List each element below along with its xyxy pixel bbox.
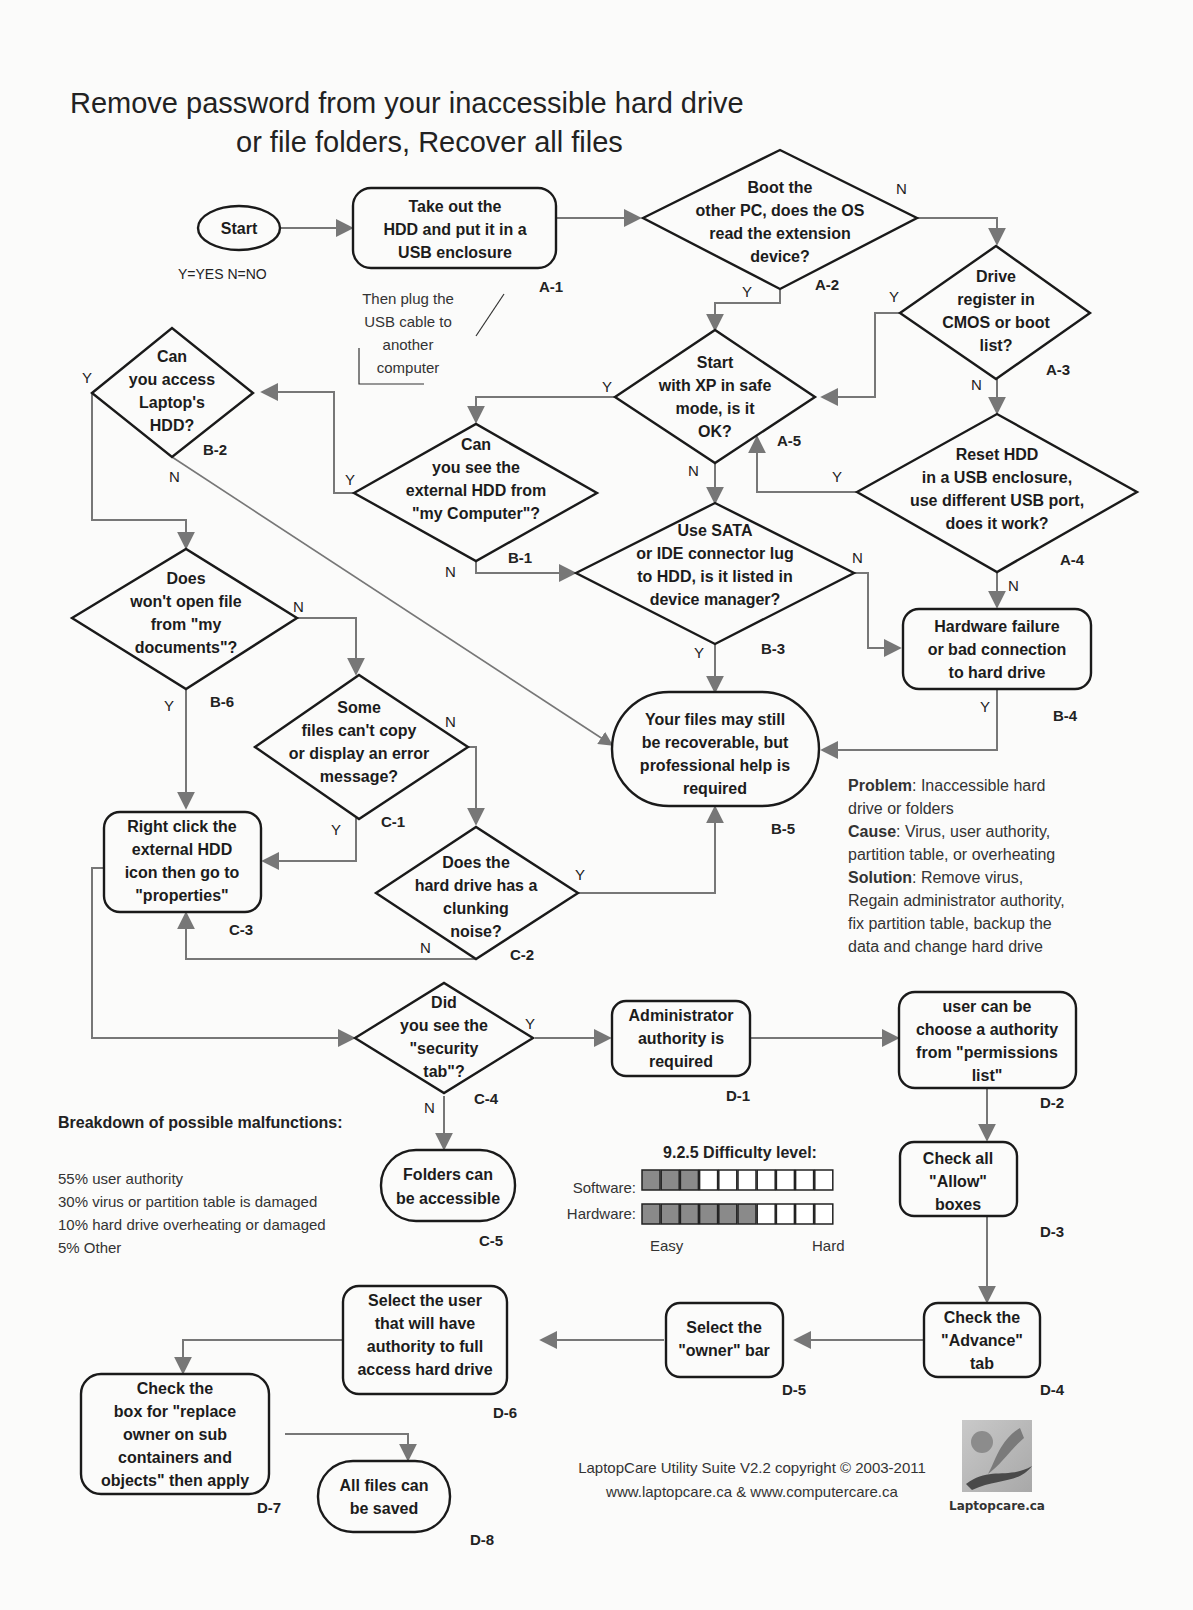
difficulty-cell	[680, 1170, 698, 1190]
node-id-B2: B-2	[203, 441, 227, 458]
svg-text:be saved: be saved	[350, 1500, 418, 1517]
edge-label-A2-N: N	[896, 180, 907, 197]
svg-text:list": list"	[972, 1067, 1003, 1084]
svg-text:be recoverable, but: be recoverable, but	[642, 734, 789, 751]
node-id-C1: C-1	[381, 813, 405, 830]
node-D3[interactable]: Check all "Allow" boxes	[900, 1142, 1017, 1216]
svg-text:5% Other: 5% Other	[58, 1239, 121, 1256]
svg-text:you access: you access	[129, 371, 215, 388]
svg-text:files can't copy: files can't copy	[302, 722, 417, 739]
svg-text:30% virus or partition table i: 30% virus or partition table is damaged	[58, 1193, 317, 1210]
svg-text:tab: tab	[970, 1355, 994, 1372]
edge-label-B2-Y: Y	[82, 369, 92, 386]
svg-text:Does the: Does the	[442, 854, 510, 871]
node-B2[interactable]: Can you access Laptop's HDD?	[92, 328, 253, 457]
svg-text:Check the: Check the	[944, 1309, 1021, 1326]
svg-text:Check all: Check all	[923, 1150, 993, 1167]
node-D1[interactable]: Administrator authority is required	[612, 1001, 750, 1076]
node-D4[interactable]: Check the "Advance" tab	[924, 1303, 1040, 1377]
svg-text:Use SATA: Use SATA	[678, 522, 753, 539]
svg-text:"security: "security	[410, 1040, 479, 1057]
node-C4[interactable]: Did you see the "security tab"?	[355, 983, 533, 1093]
svg-text:Some: Some	[337, 699, 381, 716]
svg-text:Folders can: Folders can	[403, 1166, 493, 1183]
edge-label-C4-Y: Y	[525, 1015, 535, 1032]
edge-label-B3-Y: Y	[694, 644, 704, 661]
svg-text:that will have: that will have	[375, 1315, 476, 1332]
svg-text:other PC, does the OS: other PC, does the OS	[696, 202, 865, 219]
node-id-D4: D-4	[1040, 1381, 1065, 1398]
svg-text:or IDE connector lug: or IDE connector lug	[636, 545, 793, 562]
node-D8[interactable]: All files can be saved	[318, 1461, 450, 1532]
node-A1[interactable]: Take out the HDD and put it in a USB enc…	[353, 188, 556, 268]
edge-label-B6-N: N	[293, 598, 304, 615]
node-C2[interactable]: Does the hard drive has a clunking noise…	[376, 827, 578, 959]
svg-text:hard drive has a: hard drive has a	[415, 877, 538, 894]
svg-text:"Allow": "Allow"	[929, 1173, 987, 1190]
svg-text:Then plug the: Then plug the	[362, 290, 454, 307]
svg-text:professional help is: professional help is	[640, 757, 790, 774]
difficulty-cell	[815, 1204, 833, 1224]
svg-text:USB cable to: USB cable to	[364, 313, 452, 330]
svg-text:to hard drive: to hard drive	[949, 664, 1046, 681]
node-id-D3: D-3	[1040, 1223, 1064, 1240]
yes-no-legend: Y=YES N=NO	[178, 266, 267, 282]
svg-text:Administrator: Administrator	[629, 1007, 734, 1024]
svg-text:with XP in safe: with XP in safe	[658, 377, 772, 394]
node-C1[interactable]: Some files can't copy or display an erro…	[255, 675, 468, 819]
node-B6[interactable]: Does won't open file from "my documents"…	[72, 549, 297, 689]
node-start[interactable]: Start	[198, 206, 280, 250]
node-D2[interactable]: user can be choose a authority from "per…	[899, 992, 1076, 1088]
svg-text:to HDD, is it listed in: to HDD, is it listed in	[637, 568, 793, 585]
difficulty-cell	[642, 1170, 660, 1190]
node-D6[interactable]: Select the user that will have authority…	[343, 1286, 507, 1394]
svg-text:external HDD: external HDD	[132, 841, 232, 858]
svg-text:owner on sub: owner on sub	[123, 1426, 227, 1443]
svg-text:Select the: Select the	[686, 1319, 762, 1336]
page-title-line1: Remove password from your inaccessible h…	[70, 87, 744, 119]
edge-label-B2-N: N	[169, 468, 180, 485]
svg-text:10% hard drive overheating or: 10% hard drive overheating or damaged	[58, 1216, 326, 1233]
svg-text:Right click the: Right click the	[127, 818, 236, 835]
svg-text:Solution: Remove virus,: Solution: Remove virus,	[848, 869, 1023, 886]
node-A4[interactable]: Reset HDD in a USB enclosure, use differ…	[857, 414, 1137, 572]
node-A3[interactable]: Drive register in CMOS or boot list?	[900, 246, 1090, 379]
node-C3[interactable]: Right click the external HDD icon then g…	[104, 812, 261, 912]
svg-text:external HDD from: external HDD from	[406, 482, 546, 499]
node-id-C4: C-4	[474, 1090, 499, 1107]
svg-text:partition table, or overheatin: partition table, or overheating	[848, 846, 1055, 863]
node-B3[interactable]: Use SATA or IDE connector lug to HDD, is…	[576, 503, 854, 644]
svg-text:www.laptopcare.ca & www.comput: www.laptopcare.ca & www.computercare.ca	[605, 1483, 898, 1500]
difficulty-cell	[796, 1204, 814, 1224]
svg-text:register in: register in	[957, 291, 1034, 308]
svg-text:mode, is it: mode, is it	[675, 400, 755, 417]
svg-text:Drive: Drive	[976, 268, 1016, 285]
hardware-difficulty-bar	[642, 1204, 833, 1224]
node-A2[interactable]: Boot the other PC, does the OS read the …	[643, 150, 917, 289]
node-id-B4: B-4	[1053, 707, 1078, 724]
note-pointer-line	[476, 294, 504, 336]
node-id-D8: D-8	[470, 1531, 494, 1548]
node-id-A2: A-2	[815, 276, 839, 293]
edge-label-A2-Y: Y	[742, 283, 752, 300]
svg-text:clunking: clunking	[443, 900, 509, 917]
node-id-A3: A-3	[1046, 361, 1070, 378]
node-B5[interactable]: Your files may still be recoverable, but…	[612, 692, 819, 806]
node-C5[interactable]: Folders can be accessible	[381, 1150, 515, 1221]
node-B1[interactable]: Can you see the external HDD from "my Co…	[354, 424, 597, 561]
node-id-B3: B-3	[761, 640, 785, 657]
svg-text:message?: message?	[320, 768, 398, 785]
svg-text:noise?: noise?	[450, 923, 502, 940]
malfunction-breakdown: Breakdown of possible malfunctions: 55% …	[58, 1114, 342, 1256]
problem-summary: Problem: Inaccessible hard drive or fold…	[848, 777, 1065, 955]
svg-text:required: required	[649, 1053, 713, 1070]
node-B4[interactable]: Hardware failure or bad connection to ha…	[903, 609, 1091, 689]
node-D7[interactable]: Check the box for "replace owner on sub …	[81, 1374, 269, 1494]
node-id-D1: D-1	[726, 1087, 750, 1104]
svg-text:Can: Can	[157, 348, 187, 365]
node-D5[interactable]: Select the "owner" bar	[666, 1303, 783, 1377]
svg-text:required: required	[683, 780, 747, 797]
difficulty-cell	[776, 1170, 794, 1190]
svg-text:drive or folders: drive or folders	[848, 800, 954, 817]
svg-text:access hard drive: access hard drive	[357, 1361, 492, 1378]
